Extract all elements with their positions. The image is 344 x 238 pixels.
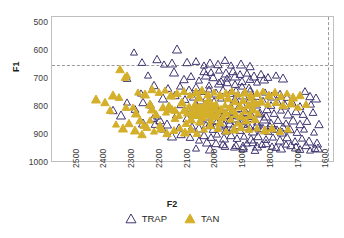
x-tick-label: 2300 xyxy=(127,149,136,168)
y-tick-label: 1000 xyxy=(8,158,48,167)
y-tick-label: 900 xyxy=(8,130,48,139)
x-tick-label: 1600 xyxy=(321,149,330,168)
y-tick-label: 600 xyxy=(8,46,48,55)
vertical-reference-line xyxy=(328,17,329,161)
plot-area xyxy=(52,17,333,161)
plot-frame xyxy=(51,16,334,162)
x-tick-label: 2500 xyxy=(72,149,81,168)
legend-item-label: TRAP xyxy=(142,214,167,224)
x-axis-label: F2 xyxy=(0,199,344,209)
x-tick-label: 2400 xyxy=(99,149,108,168)
x-tick-label: 1700 xyxy=(294,149,303,168)
triangle-filled-icon xyxy=(184,213,196,224)
triangle-open-icon xyxy=(125,213,137,224)
y-tick-label: 700 xyxy=(8,74,48,83)
x-tick-label: 1900 xyxy=(238,149,247,168)
chart-legend: TRAPTAN xyxy=(0,213,344,224)
scatter-plot-figure: F1 5006007008009001000 25002400230022002… xyxy=(0,0,344,238)
legend-item-tan[interactable]: TAN xyxy=(184,213,219,224)
legend-item-label: TAN xyxy=(201,214,219,224)
x-tick-label: 2200 xyxy=(155,149,164,168)
x-tick-label: 1800 xyxy=(266,149,275,168)
y-tick-label: 800 xyxy=(8,102,48,111)
x-tick-label: 2000 xyxy=(210,149,219,168)
x-tick-label: 2100 xyxy=(183,149,192,168)
legend-item-trap[interactable]: TRAP xyxy=(125,213,167,224)
y-tick-label: 500 xyxy=(8,18,48,27)
y-axis-label: F1 xyxy=(11,61,21,72)
